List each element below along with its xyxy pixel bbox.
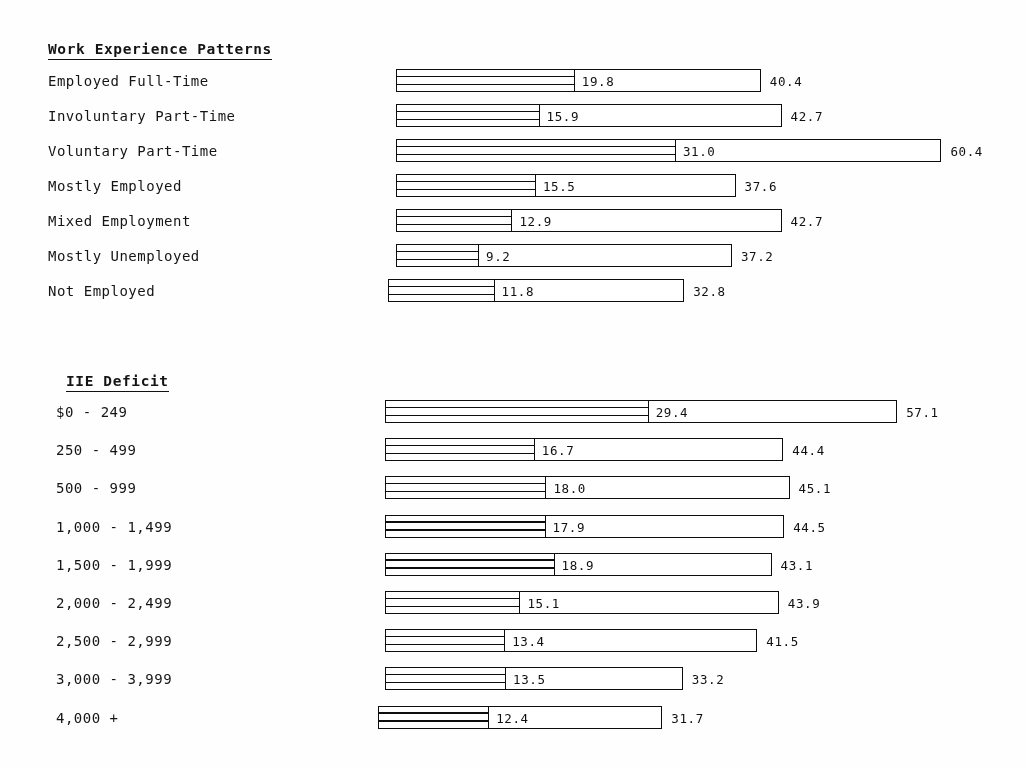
bar-inner-segment — [385, 476, 546, 499]
inner-value-label: 13.5 — [509, 671, 549, 688]
inner-value-label: 18.9 — [558, 556, 598, 573]
total-value-label: 44.4 — [792, 443, 825, 458]
total-value-label: 33.2 — [692, 672, 725, 687]
bar-container: 15.942.7 — [396, 103, 852, 129]
category-label: 4,000 + — [56, 710, 119, 726]
chart-row: 3,000 - 3,99913.533.2 — [0, 666, 1026, 692]
total-value-label: 42.7 — [791, 214, 824, 229]
category-label: $0 - 249 — [56, 404, 127, 420]
bar-inner-segment — [396, 209, 512, 232]
total-value-label: 37.2 — [741, 249, 774, 264]
inner-value-label: 12.4 — [492, 709, 532, 726]
total-value-label: 40.4 — [770, 74, 803, 89]
chart-row: 1,000 - 1,49917.944.5 — [0, 514, 1026, 540]
bar-container: 31.060.4 — [396, 138, 1011, 164]
chart-row: 250 - 49916.744.4 — [0, 437, 1026, 463]
chart-row: Mostly Unemployed9.237.2 — [0, 243, 1026, 269]
chart-row: 1,500 - 1,99918.943.1 — [0, 552, 1026, 578]
chart-row: $0 - 24929.457.1 — [0, 399, 1026, 425]
chart-row: Mostly Employed15.537.6 — [0, 173, 1026, 199]
inner-value-label: 18.0 — [549, 480, 589, 497]
inner-value-label: 15.5 — [539, 178, 579, 195]
category-label: Involuntary Part-Time — [48, 108, 236, 124]
bar-inner-segment — [385, 553, 555, 576]
category-label: Voluntary Part-Time — [48, 143, 218, 159]
bar-inner-segment — [396, 244, 479, 267]
total-value-label: 57.1 — [906, 405, 939, 420]
total-value-label: 44.5 — [793, 519, 826, 534]
chart-row: Involuntary Part-Time15.942.7 — [0, 103, 1026, 129]
category-label: Not Employed — [48, 283, 155, 299]
inner-value-label: 19.8 — [578, 73, 618, 90]
chart-row: 4,000 +12.431.7 — [0, 705, 1026, 731]
total-value-label: 41.5 — [766, 634, 799, 649]
total-value-label: 37.6 — [745, 179, 778, 194]
inner-value-label: 15.9 — [543, 108, 583, 125]
total-value-label: 32.8 — [693, 284, 726, 299]
category-label: Mostly Employed — [48, 178, 182, 194]
bar-inner-segment — [385, 438, 535, 461]
group-heading: Work Experience Patterns — [48, 41, 272, 60]
chart-row: 2,500 - 2,99913.441.5 — [0, 628, 1026, 654]
bar-inner-segment — [396, 104, 540, 127]
inner-value-label: 15.1 — [523, 595, 563, 612]
total-value-label: 31.7 — [671, 710, 704, 725]
category-label: 1,000 - 1,499 — [56, 519, 172, 535]
total-value-label: 43.9 — [788, 596, 821, 611]
chart-row: Not Employed11.832.8 — [0, 278, 1026, 304]
bar-container: 12.942.7 — [396, 208, 852, 234]
bar-container: 15.537.6 — [396, 173, 806, 199]
category-label: 2,000 - 2,499 — [56, 595, 172, 611]
chart-row: 2,000 - 2,49915.143.9 — [0, 590, 1026, 616]
bar-container: 15.143.9 — [385, 590, 849, 616]
bar-container: 11.832.8 — [388, 278, 754, 304]
category-label: 500 - 999 — [56, 480, 136, 496]
bar-inner-segment — [396, 69, 575, 92]
bar-inner-segment — [378, 706, 489, 729]
bar-container: 29.457.1 — [385, 399, 967, 425]
bar-inner-segment — [385, 629, 505, 652]
category-label: 1,500 - 1,999 — [56, 557, 172, 573]
bar-container: 19.840.4 — [396, 68, 831, 94]
inner-value-label: 13.4 — [508, 633, 548, 650]
bar-container: 17.944.5 — [385, 514, 854, 540]
bar-inner-segment — [388, 279, 495, 302]
bar-container: 12.431.7 — [378, 705, 732, 731]
inner-value-label: 9.2 — [482, 248, 513, 265]
bar-inner-segment — [385, 667, 506, 690]
inner-value-label: 12.9 — [515, 213, 555, 230]
inner-value-label: 31.0 — [679, 143, 719, 160]
inner-value-label: 17.9 — [549, 518, 589, 535]
chart-row: 500 - 99918.045.1 — [0, 475, 1026, 501]
category-label: Employed Full-Time — [48, 73, 209, 89]
bar-inner-segment — [396, 139, 676, 162]
inner-value-label: 29.4 — [652, 404, 692, 421]
chart-row: Mixed Employment12.942.7 — [0, 208, 1026, 234]
total-value-label: 60.4 — [950, 144, 983, 159]
bar-container: 18.045.1 — [385, 475, 860, 501]
bar-inner-segment — [396, 174, 536, 197]
bar-inner-segment — [385, 400, 649, 423]
bar-inner-segment — [385, 515, 546, 538]
group-heading: IIE Deficit — [66, 373, 169, 392]
bar-container: 16.744.4 — [385, 437, 853, 463]
bar-container: 13.441.5 — [385, 628, 827, 654]
bar-container: 13.533.2 — [385, 666, 753, 692]
inner-value-label: 11.8 — [498, 283, 538, 300]
total-value-label: 45.1 — [799, 481, 832, 496]
document-page: Work Experience PatternsEmployed Full-Ti… — [0, 0, 1026, 768]
inner-value-label: 16.7 — [538, 442, 578, 459]
category-label: Mixed Employment — [48, 213, 191, 229]
total-value-label: 43.1 — [781, 557, 814, 572]
category-label: 250 - 499 — [56, 442, 136, 458]
bar-container: 9.237.2 — [396, 243, 802, 269]
bar-container: 18.943.1 — [385, 552, 842, 578]
category-label: 2,500 - 2,999 — [56, 633, 172, 649]
bar-inner-segment — [385, 591, 520, 614]
chart-row: Employed Full-Time19.840.4 — [0, 68, 1026, 94]
category-label: 3,000 - 3,999 — [56, 671, 172, 687]
category-label: Mostly Unemployed — [48, 248, 200, 264]
chart-row: Voluntary Part-Time31.060.4 — [0, 138, 1026, 164]
total-value-label: 42.7 — [791, 109, 824, 124]
